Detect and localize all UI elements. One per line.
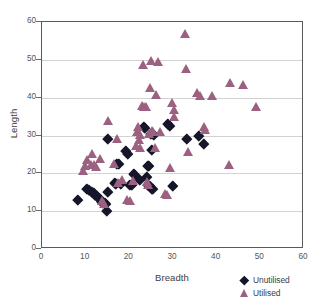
data-point-diamond [146, 183, 157, 194]
diamond-marker-icon [238, 274, 250, 286]
data-point-diamond [113, 158, 124, 169]
data-point-triangle [142, 177, 152, 186]
data-point-triangle [117, 175, 127, 184]
data-point-triangle [200, 125, 210, 134]
data-point-triangle [183, 147, 193, 156]
triangle-marker-icon [238, 287, 250, 299]
data-point-diamond [141, 172, 152, 183]
data-point-triangle [78, 166, 88, 175]
data-point-triangle [143, 180, 153, 189]
data-point-triangle [80, 161, 90, 170]
y-tick-label: 20 [12, 168, 36, 176]
y-tick-label: 50 [12, 55, 36, 63]
data-point-triangle [225, 78, 235, 87]
data-point-triangle [167, 98, 177, 107]
data-point-triangle [146, 56, 156, 65]
data-point-diamond [163, 119, 174, 130]
data-point-diamond [164, 120, 175, 131]
data-point-diamond [116, 179, 127, 190]
data-point-triangle [139, 102, 149, 111]
data-point-triangle [125, 196, 135, 205]
chart-legend: UnutilisedUtilised [238, 274, 290, 300]
data-point-diamond [111, 178, 122, 189]
data-point-diamond [92, 191, 103, 202]
data-point-triangle [109, 159, 119, 168]
data-point-diamond [90, 189, 101, 200]
data-point-triangle [99, 199, 109, 208]
data-point-diamond [96, 195, 107, 206]
x-tick-label: 50 [247, 253, 271, 261]
legend-item-label: Utilised [253, 289, 280, 297]
data-point-diamond [134, 175, 145, 186]
data-point-triangle [169, 105, 179, 114]
data-point-diamond [94, 194, 105, 205]
data-point-triangle [207, 91, 217, 100]
data-point-triangle [153, 57, 163, 66]
data-point-diamond [127, 179, 138, 190]
data-point-triangle [91, 162, 101, 171]
x-tick-label: 10 [73, 253, 97, 261]
data-point-triangle [192, 88, 202, 97]
data-point-triangle [195, 91, 205, 100]
x-tick-label: 60 [291, 253, 315, 261]
data-points-layer [42, 22, 302, 247]
data-point-diamond [145, 180, 156, 191]
data-point-diamond [148, 183, 159, 194]
data-point-triangle [82, 155, 92, 164]
data-point-triangle [95, 154, 105, 163]
y-tick-mark [36, 248, 41, 249]
data-point-diamond [147, 145, 158, 156]
legend-item-label: Unutilised [253, 276, 290, 284]
legend-item-utilised[interactable]: Utilised [238, 287, 290, 299]
data-point-triangle [137, 101, 147, 110]
x-tick-label: 0 [29, 253, 53, 261]
data-point-triangle [165, 163, 175, 172]
data-point-triangle [128, 176, 138, 185]
data-point-triangle [131, 141, 141, 150]
data-point-diamond [81, 183, 92, 194]
data-point-diamond [100, 199, 111, 210]
data-point-diamond [88, 188, 99, 199]
data-point-triangle [238, 80, 248, 89]
data-point-diamond [109, 177, 120, 188]
data-point-triangle [135, 130, 145, 139]
data-point-diamond [148, 129, 159, 140]
data-point-diamond [98, 197, 109, 208]
data-point-diamond [138, 121, 149, 132]
data-point-triangle [148, 127, 158, 136]
data-point-triangle [86, 160, 96, 169]
y-tick-label: 30 [12, 131, 36, 139]
data-point-triangle [133, 122, 143, 131]
data-point-diamond [99, 198, 110, 209]
data-point-diamond [129, 169, 140, 180]
data-point-triangle [147, 126, 157, 135]
data-point-diamond [128, 168, 139, 179]
data-point-diamond [193, 130, 204, 141]
x-tick-label: 40 [204, 253, 228, 261]
legend-item-unutilised[interactable]: Unutilised [238, 274, 290, 286]
data-point-triangle [141, 102, 151, 111]
data-point-diamond [140, 123, 151, 134]
plot-area [41, 21, 303, 248]
data-point-diamond [142, 160, 153, 171]
data-point-triangle [134, 135, 144, 144]
data-point-diamond [112, 159, 123, 170]
data-point-triangle [169, 112, 179, 121]
x-tick-label: 20 [116, 253, 140, 261]
data-point-triangle [103, 116, 113, 125]
data-point-diamond [199, 139, 210, 150]
data-point-diamond [102, 134, 113, 145]
data-point-triangle [199, 122, 209, 131]
data-point-diamond [124, 179, 135, 190]
data-point-triangle [181, 64, 191, 73]
data-point-triangle [135, 143, 145, 152]
data-point-diamond [97, 196, 108, 207]
data-point-triangle [112, 134, 122, 143]
data-point-diamond [103, 186, 114, 197]
data-point-diamond [93, 192, 104, 203]
data-point-triangle [251, 102, 261, 111]
data-point-triangle [144, 129, 154, 138]
data-point-diamond [72, 195, 83, 206]
data-point-diamond [146, 129, 157, 140]
scatter-chart-figure: Length 0102030405060 0102030405060 Bread… [0, 0, 327, 305]
